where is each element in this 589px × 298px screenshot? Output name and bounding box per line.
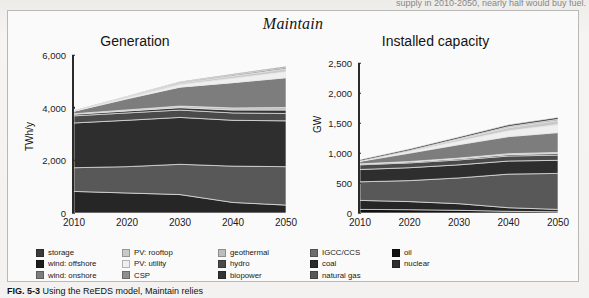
legend-item: IGCC/CCS <box>310 247 361 258</box>
legend-swatch-icon <box>392 249 400 257</box>
legend-item-label: geothermal <box>230 247 269 258</box>
legend-item: PV: rooftop <box>122 247 173 258</box>
legend-item: natural gas <box>310 270 361 281</box>
legend-swatch-icon <box>310 271 318 279</box>
legend-item: nuclear <box>392 258 430 269</box>
x-tick-label: 2010 <box>349 217 371 228</box>
x-tick-label: 2050 <box>547 217 569 228</box>
legend-item-label: PV: rooftop <box>134 247 173 258</box>
plot-area-capacity: 05001,0001,5002,0002,500 201020202030204… <box>358 63 558 213</box>
chart-panel-generation: Generation TWh/y 02,0004,0006,000 201020… <box>18 33 306 243</box>
legend-item-label: biopower <box>230 270 262 281</box>
bleed-text-above-figure: supply in 2010-2050, nearly half would b… <box>330 0 586 9</box>
figure-container: Maintain Generation TWh/y 02,0004,0006,0… <box>7 10 579 282</box>
y-tick-label: 4,000 <box>42 102 72 113</box>
x-tick-label: 2040 <box>497 217 519 228</box>
legend-item-label: wind: onshore <box>48 270 97 281</box>
legend-item-label: coal <box>322 258 336 269</box>
legend-swatch-icon <box>122 271 130 279</box>
legend-item: coal <box>310 258 361 269</box>
figure-caption: FIG. 5-3 Using the ReEDS model, Maintain… <box>7 286 579 296</box>
stacked-area-generation <box>74 55 286 213</box>
x-tick-label: 2030 <box>169 217 191 228</box>
legend-item-label: natural gas <box>322 270 361 281</box>
chart-title-generation: Generation <box>30 33 240 49</box>
legend-swatch-icon <box>310 249 318 257</box>
legend-item-label: oil <box>404 247 412 258</box>
legend-column-5: oilnuclear <box>392 247 430 270</box>
legend-swatch-icon <box>218 260 226 268</box>
legend-column-4: IGCC/CCScoalnatural gas <box>310 247 361 281</box>
x-tick-label: 2020 <box>116 217 138 228</box>
x-tick-label: 2010 <box>63 217 85 228</box>
y-tick-label: 6,000 <box>42 50 72 61</box>
chart-title-capacity: Installed capacity <box>328 33 543 49</box>
legend-swatch-icon <box>392 260 400 268</box>
x-tick-label: 2050 <box>275 217 297 228</box>
legend-item: geothermal <box>218 247 269 258</box>
y-tick-label: 2,000 <box>328 88 358 99</box>
legend-column-3: geothermalhydrobiopower <box>218 247 269 281</box>
caption-body: Using the ReEDS model, Maintain relies <box>43 286 204 296</box>
y-tick-label: 1,500 <box>328 118 358 129</box>
x-tick-label: 2020 <box>398 217 420 228</box>
legend-column-1: storagewind: offshorewind: onshore <box>36 247 97 281</box>
legend-swatch-icon <box>36 271 44 279</box>
legend-swatch-icon <box>36 249 44 257</box>
plot-area-generation: 02,0004,0006,000 20102020203020402050 <box>72 55 286 213</box>
legend-item-label: hydro <box>230 258 250 269</box>
chart-panel-capacity: Installed capacity GW 05001,0001,5002,00… <box>306 33 574 243</box>
caption-label: FIG. 5-3 <box>7 286 40 296</box>
legend-swatch-icon <box>122 260 130 268</box>
legend-column-2: PV: rooftopPV: utilityCSP <box>122 247 173 281</box>
stacked-area-capacity <box>360 63 558 213</box>
legend-item: wind: onshore <box>36 270 97 281</box>
legend-item-label: IGCC/CCS <box>322 247 360 258</box>
y-axis-label-capacity: GW <box>312 116 323 133</box>
legend-item: wind: offshore <box>36 258 97 269</box>
y-tick-label: 1,000 <box>328 148 358 159</box>
y-tick-label: 2,000 <box>42 155 72 166</box>
chart-legend: storagewind: offshorewind: onshorePV: ro… <box>18 247 574 281</box>
legend-item-label: PV: utility <box>134 258 166 269</box>
y-tick-label: 500 <box>336 178 358 189</box>
x-tick-label: 2030 <box>448 217 470 228</box>
legend-item-label: wind: offshore <box>48 258 96 269</box>
legend-swatch-icon <box>310 260 318 268</box>
y-tick-label: 2,500 <box>328 58 358 69</box>
figure-title: Maintain <box>8 15 578 33</box>
legend-swatch-icon <box>36 260 44 268</box>
legend-swatch-icon <box>218 271 226 279</box>
legend-item-label: CSP <box>134 270 150 281</box>
legend-item: CSP <box>122 270 173 281</box>
legend-swatch-icon <box>122 249 130 257</box>
y-axis-label-generation: TWh/y <box>24 122 35 151</box>
legend-item-label: storage <box>48 247 74 258</box>
legend-item: PV: utility <box>122 258 173 269</box>
x-tick-label: 2040 <box>222 217 244 228</box>
area-series-nuclear <box>74 117 286 167</box>
legend-swatch-icon <box>218 249 226 257</box>
legend-item-label: nuclear <box>404 258 430 269</box>
legend-item: biopower <box>218 270 269 281</box>
legend-item: storage <box>36 247 97 258</box>
legend-item: oil <box>392 247 430 258</box>
legend-item: hydro <box>218 258 269 269</box>
